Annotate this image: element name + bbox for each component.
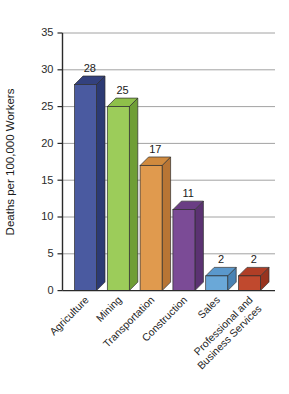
y-axis-tick-label: 5 [47,247,53,259]
bar-front-face [239,276,261,291]
bar-sales [206,267,237,290]
bar-side-face [97,76,106,291]
y-axis-title: Deaths per 100,000 Workers [4,88,16,235]
bar-front-face [107,107,129,291]
bar-value-label: 17 [149,143,161,155]
bar-value-label: 2 [251,253,257,265]
bar-front-face [206,276,228,291]
bar-value-label: 28 [84,62,96,74]
bar-front-face [173,210,195,291]
bar-agriculture [75,76,106,291]
bar-value-label: 11 [182,187,193,199]
y-axis-tick-label: 10 [41,210,53,222]
bar-side-face [195,201,204,290]
bar-transportation [140,157,171,291]
bar-professional [239,267,270,290]
y-axis-tick-label: 15 [41,174,53,186]
bar-front-face [140,165,162,290]
bar-side-face [162,157,171,291]
bar-value-label: 25 [116,84,128,96]
bar-chart-figure: 05101520253035 2825171122 AgricultureMin… [0,0,289,394]
y-axis-tick-label: 25 [41,100,53,112]
y-axis-tick-label: 20 [41,137,53,149]
bar-front-face [75,85,97,291]
bar-side-face [129,98,138,291]
bar-value-label: 2 [218,253,224,265]
bar-mining [107,98,138,291]
y-axis-tick-label: 35 [41,26,53,38]
bar-construction [173,201,204,290]
y-axis-tick-label: 0 [47,284,53,296]
y-axis-tick-label: 30 [41,63,53,75]
chart-canvas: 05101520253035 2825171122 AgricultureMin… [0,0,289,394]
